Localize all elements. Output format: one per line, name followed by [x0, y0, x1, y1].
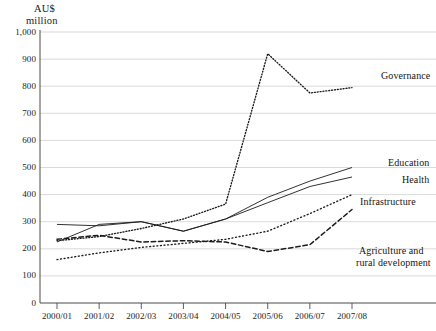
- y-tick-label: 300: [6, 216, 36, 226]
- y-tick-label: 900: [6, 54, 36, 64]
- x-axis-ticks: [57, 303, 352, 309]
- plot-area: [0, 0, 436, 331]
- x-tick-label: 2007/08: [322, 311, 382, 321]
- y-tick-label: 200: [6, 243, 36, 253]
- series-label-agriculture-line2: rural development: [356, 257, 431, 269]
- series-label-agriculture-line1: Agriculture and: [359, 245, 424, 257]
- y-tick-label: 0: [6, 298, 36, 308]
- series-line-agriculture-and-rural-development: [57, 210, 352, 252]
- series-line-infrastructure: [57, 195, 352, 260]
- series-lines: [57, 54, 352, 260]
- series-label-infrastructure: Infrastructure: [360, 196, 416, 208]
- series-line-health: [57, 177, 352, 231]
- y-tick-label: 100: [6, 270, 36, 280]
- y-tick-label: 600: [6, 135, 36, 145]
- line-chart: AU$ million 0100200300400500600700800900…: [0, 0, 436, 331]
- y-tick-label: 800: [6, 81, 36, 91]
- series-label-health: Health: [402, 174, 429, 186]
- series-label-governance: Governance: [381, 70, 430, 82]
- y-tick-label: 500: [6, 162, 36, 172]
- y-tick-label: 1,000: [6, 27, 36, 37]
- gridlines: [40, 32, 436, 276]
- series-label-education: Education: [388, 157, 429, 169]
- y-tick-label: 400: [6, 189, 36, 199]
- y-tick-label: 700: [6, 108, 36, 118]
- series-line-governance: [57, 54, 352, 241]
- series-line-education: [57, 168, 352, 243]
